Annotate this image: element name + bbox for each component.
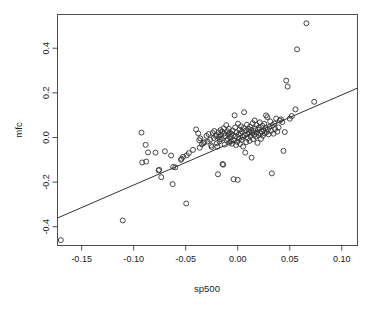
x-axis-ticks xyxy=(82,246,342,251)
scatter-point xyxy=(269,171,274,176)
x-tick-label: 0.05 xyxy=(281,254,299,264)
scatter-point xyxy=(281,148,286,153)
x-tick-label: -0.05 xyxy=(175,254,196,264)
scatter-point xyxy=(196,131,201,136)
scatter-point xyxy=(304,21,309,26)
y-tick-label: -0.4 xyxy=(41,219,51,235)
scatter-point xyxy=(243,150,248,155)
plot-frame xyxy=(58,15,358,246)
x-axis-title: sp500 xyxy=(194,283,220,294)
scatter-point xyxy=(58,238,63,243)
scatter-point xyxy=(184,201,189,206)
x-tick-label: 0.10 xyxy=(333,254,351,264)
y-axis-ticks xyxy=(53,48,58,226)
fitted-regression-line xyxy=(58,88,358,218)
scatter-point xyxy=(120,218,125,223)
x-tick-label: 0.00 xyxy=(229,254,247,264)
scatter-point xyxy=(236,121,241,126)
scatter-point xyxy=(153,150,158,155)
scatter-point xyxy=(190,147,195,152)
plot-canvas: -0.15-0.10-0.050.000.050.10 -0.4-0.20.00… xyxy=(0,0,385,310)
scatter-point xyxy=(159,175,164,180)
y-tick-label: -0.2 xyxy=(41,174,51,190)
scatter-point xyxy=(139,130,144,135)
y-tick-label: 0.0 xyxy=(41,131,51,144)
y-axis-tick-labels: -0.4-0.20.00.20.4 xyxy=(41,42,51,234)
scatter-point xyxy=(143,142,148,147)
scatter-point xyxy=(232,113,237,118)
scatter-point xyxy=(293,107,298,112)
y-axis-title: mfc xyxy=(13,122,24,138)
y-tick-label: 0.4 xyxy=(41,42,51,55)
scatter-point xyxy=(285,84,290,89)
scatter-plot-figure: -0.15-0.10-0.050.000.050.10 -0.4-0.20.00… xyxy=(0,0,385,310)
x-axis-tick-labels: -0.15-0.10-0.050.000.050.10 xyxy=(71,254,350,264)
scatter-point xyxy=(295,47,300,52)
scatter-point xyxy=(249,155,254,160)
scatter-point xyxy=(162,149,167,154)
scatter-point xyxy=(215,172,220,177)
regression-line xyxy=(58,88,358,218)
scatter-point xyxy=(241,144,246,149)
scatter-point xyxy=(312,99,317,104)
plot-box-border xyxy=(58,15,358,246)
scatter-point xyxy=(169,153,174,158)
y-tick-label: 0.2 xyxy=(41,87,51,100)
scatter-point xyxy=(282,130,287,135)
x-tick-label: -0.15 xyxy=(71,254,92,264)
scatter-point xyxy=(170,182,175,187)
scatter-points xyxy=(58,21,316,243)
scatter-point xyxy=(242,110,247,115)
x-tick-label: -0.10 xyxy=(123,254,144,264)
scatter-point xyxy=(146,150,151,155)
scatter-point xyxy=(284,78,289,83)
